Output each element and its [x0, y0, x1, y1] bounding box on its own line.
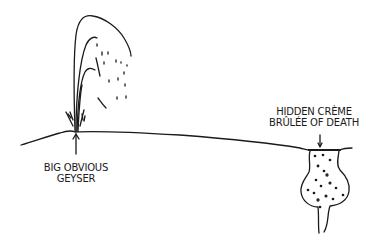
geyser-icon [66, 16, 131, 131]
creme-brulee-label-line1: HIDDEN CRÈME [266, 106, 362, 117]
creme-brulee-label: HIDDEN CRÈME BRÛLÉE OF DEATH [266, 106, 362, 128]
creme-brulee-arrow-icon [318, 135, 322, 147]
geyser-arrow-icon [73, 134, 79, 154]
geyser-label: BIG OBVIOUS GEYSER [40, 162, 112, 184]
ground-line [21, 131, 309, 150]
ground-line-right [340, 148, 352, 150]
geyser-label-line2: GEYSER [40, 173, 112, 184]
creme-brulee-pit-icon [301, 150, 349, 233]
geyser-label-line1: BIG OBVIOUS [40, 162, 112, 173]
creme-brulee-label-line2: BRÛLÉE OF DEATH [266, 117, 362, 128]
comic-panel: BIG OBVIOUS GEYSER HIDDEN CRÈME BRÛLÉE O… [0, 0, 379, 241]
